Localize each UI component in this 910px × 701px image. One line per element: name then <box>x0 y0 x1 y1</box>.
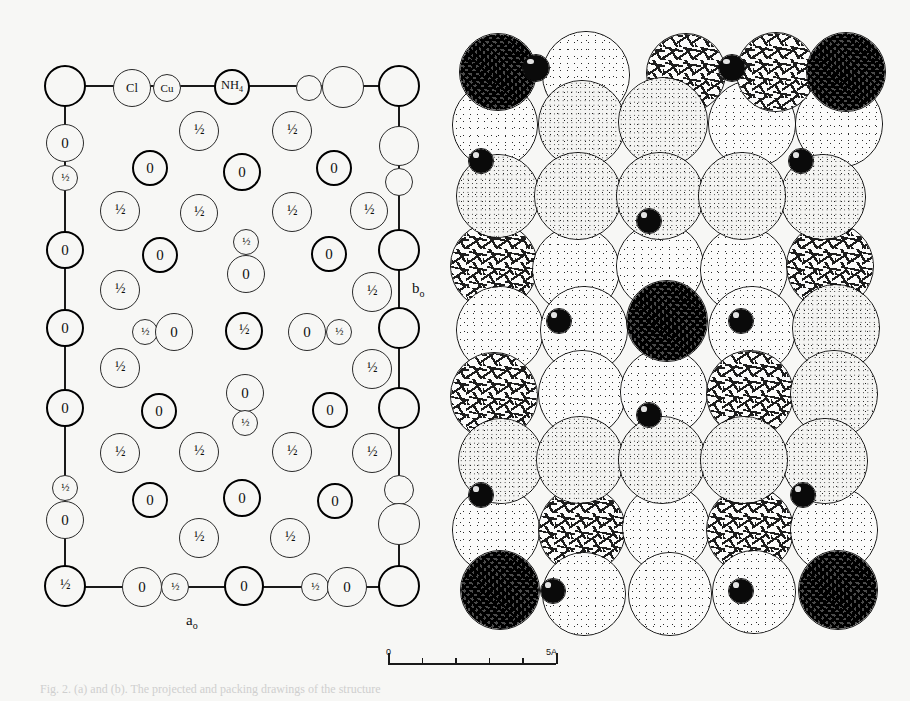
atom-cell-corner <box>378 65 420 107</box>
sphere-chloride <box>534 152 622 240</box>
atom-oxygen-z0: 0 <box>288 313 326 351</box>
sphere-copper-small <box>790 482 816 508</box>
atom-oxygen-z0: 0 <box>142 237 178 273</box>
atom-label-cu: Cu <box>153 74 181 102</box>
scale-tick <box>422 658 424 664</box>
atom-height-half: ½ <box>100 191 140 231</box>
atom-text-zero: 0 <box>170 324 178 339</box>
atom-text-ammonium: NH4 <box>221 79 243 95</box>
axis-label-b: bo <box>412 280 425 299</box>
sphere-texture <box>541 579 565 603</box>
atom-text-cl: Cl <box>126 81 138 94</box>
sphere-texture <box>807 33 885 111</box>
atom-cell-corner <box>44 65 86 107</box>
atom-height-half: ½ <box>52 165 78 191</box>
atom-oxygen-z0: 0 <box>223 153 261 191</box>
sphere-copper-small <box>728 578 754 604</box>
left-panel-projection: ClCuNH40½½½000½½½½00½00½½0½0½0½½½000½0½½… <box>0 0 450 665</box>
atom-text-zero: 0 <box>241 385 249 400</box>
atom-text-half: ½ <box>194 206 204 220</box>
atom-text-half: ½ <box>171 581 179 592</box>
sphere-texture <box>737 33 815 111</box>
sphere-texture <box>729 309 753 333</box>
sphere-copper-small <box>718 54 746 82</box>
atom-height-half: ½ <box>326 319 352 345</box>
atom-circle <box>384 475 414 505</box>
atom-height-half: ½ <box>232 410 258 436</box>
atom-oxygen-z0: 0 <box>226 374 264 412</box>
atom-height-half: ½ <box>301 573 329 601</box>
scale-bar-line <box>388 663 556 665</box>
atom-text-half: ½ <box>61 482 69 493</box>
atom-oxygen-z0: 0 <box>155 313 193 351</box>
atom-height-half: ½ <box>350 192 388 230</box>
sphere-chloride <box>700 416 788 504</box>
atom-text-half: ½ <box>311 581 319 592</box>
atom-height-half: ½ <box>233 229 259 255</box>
atom-circle <box>379 126 419 166</box>
sphere-texture <box>547 309 571 333</box>
atom-height-half: ½ <box>100 270 140 310</box>
atom-text-half: ½ <box>241 417 249 428</box>
atom-oxygen-z0: 0 <box>316 150 352 186</box>
atom-text-zero: 0 <box>155 403 163 418</box>
atom-height-half: ½ <box>44 565 86 607</box>
atom-text-zero: 0 <box>61 135 69 150</box>
atom-text-half: ½ <box>367 285 377 299</box>
atom-text-zero: 0 <box>242 266 250 281</box>
atom-oxygen-z0: 0 <box>141 393 177 429</box>
atom-oxygen-z0: 0 <box>122 567 162 607</box>
atom-oxygen-z0: 0 <box>317 483 353 519</box>
atom-text-zero: 0 <box>61 400 69 415</box>
sphere-texture <box>629 553 711 635</box>
atom-oxygen-z0: 0 <box>46 124 84 162</box>
atom-circle <box>322 66 364 108</box>
atom-text-zero: 0 <box>61 242 69 257</box>
atom-text-half: ½ <box>367 446 377 460</box>
sphere-texture <box>469 149 493 173</box>
sphere-copper-complex <box>460 550 540 630</box>
atom-height-half: ½ <box>161 573 189 601</box>
atom-text-half: ½ <box>194 445 204 459</box>
sphere-copper-small <box>468 148 494 174</box>
atom-height-half: ½ <box>272 111 312 151</box>
sphere-copper-small <box>728 308 754 334</box>
atom-height-half: ½ <box>52 475 78 501</box>
atom-text-zero: 0 <box>331 493 339 508</box>
atom-text-half: ½ <box>287 124 297 138</box>
scale-tick <box>489 658 491 664</box>
atom-height-half: ½ <box>225 312 263 350</box>
atom-text-zero: 0 <box>238 164 246 179</box>
sphere-texture <box>619 417 705 503</box>
axis-label-a: ao <box>186 612 198 631</box>
sphere-texture <box>461 551 539 629</box>
atom-text-half: ½ <box>61 172 69 183</box>
atom-oxygen-z0: 0 <box>224 566 264 606</box>
atom-oxygen-z0: 0 <box>223 479 261 517</box>
sphere-copper-small <box>636 208 662 234</box>
atom-cell-corner <box>378 565 420 607</box>
atom-text-cu: Cu <box>161 82 174 93</box>
sphere-texture <box>701 417 787 503</box>
atom-height-half: ½ <box>352 433 392 473</box>
atom-text-half: ½ <box>364 204 374 218</box>
sphere-chloride <box>536 416 624 504</box>
atom-oxygen-z0: 0 <box>312 392 348 428</box>
atom-text-half: ½ <box>194 531 204 545</box>
sphere-copper-complex <box>626 280 708 362</box>
atom-circle <box>296 75 322 101</box>
atom-height-half: ½ <box>272 192 312 232</box>
atom-oxygen-z0: 0 <box>46 501 84 539</box>
atom-height-half: ½ <box>179 432 219 472</box>
atom-circle <box>378 387 420 429</box>
scale-tick <box>388 653 390 664</box>
sphere-texture <box>637 209 661 233</box>
scale-tick <box>522 658 524 664</box>
atom-oxygen-z0: 0 <box>46 309 84 347</box>
atom-text-half: ½ <box>115 283 125 297</box>
sphere-ammonium <box>628 552 712 636</box>
atom-height-half: ½ <box>270 518 310 558</box>
right-panel-packing <box>450 30 895 638</box>
sphere-copper-small <box>522 54 550 82</box>
sphere-texture <box>535 153 621 239</box>
